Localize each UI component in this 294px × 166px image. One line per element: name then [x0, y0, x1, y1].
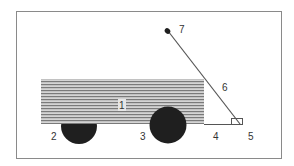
label-7: 7 [179, 24, 185, 35]
label-1: 1 [119, 100, 125, 111]
label-3: 3 [140, 131, 146, 142]
wagon-diagram: 1 2 3 4 5 6 7 [0, 0, 294, 166]
label-5: 5 [248, 131, 254, 142]
label-4: 4 [213, 131, 219, 142]
label-6: 6 [222, 82, 228, 93]
front-wheel [150, 107, 187, 144]
label-2: 2 [51, 131, 57, 142]
